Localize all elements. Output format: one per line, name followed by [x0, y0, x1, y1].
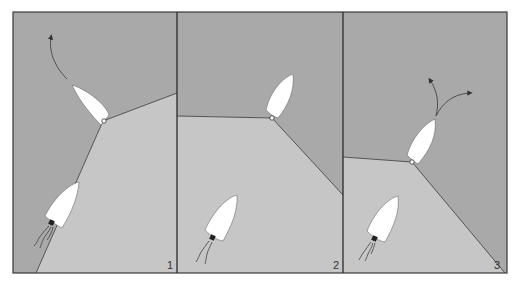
- panel-3-pivot-point-icon: [410, 160, 414, 164]
- mooring-maneuver-diagram: 1 2 3: [0, 0, 518, 286]
- panel-2-label: 2: [333, 259, 339, 271]
- panel-3-label: 3: [494, 259, 500, 271]
- panel-1-label: 1: [167, 259, 173, 271]
- panel-2: 2: [177, 12, 343, 273]
- panel-1-pivot-point-icon: [102, 119, 106, 123]
- panel-2-pivot-point-icon: [270, 116, 274, 120]
- panel-3: 3: [343, 12, 507, 273]
- panel-1: 1: [13, 12, 177, 273]
